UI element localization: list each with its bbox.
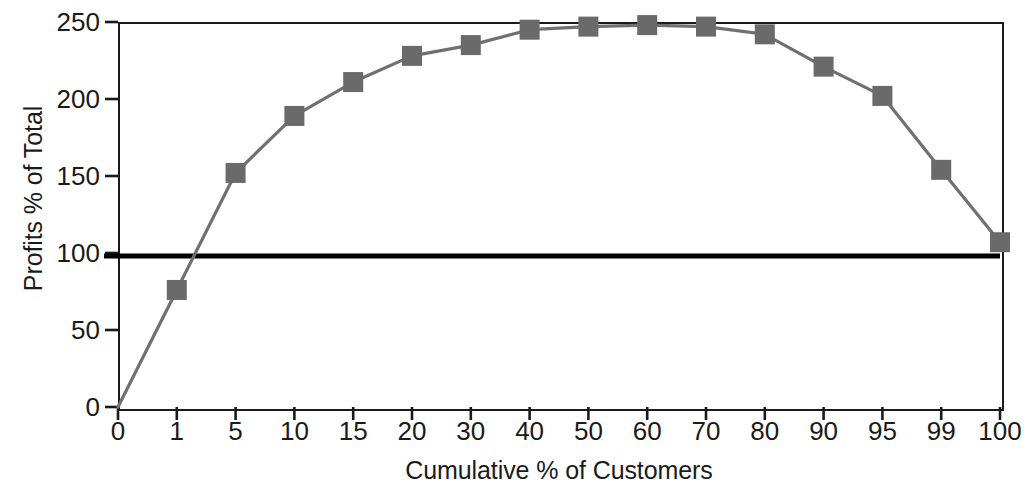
data-point-marker <box>696 17 716 37</box>
data-point-marker <box>343 72 363 92</box>
series-line <box>118 25 1000 407</box>
data-point-marker <box>637 15 657 35</box>
data-point-marker <box>990 232 1010 252</box>
y-axis-tick-marks <box>105 22 118 407</box>
data-point-marker <box>167 280 187 300</box>
data-point-marker <box>814 57 834 77</box>
chart-container: Profits % of Total 050100150200250 01510… <box>0 0 1028 499</box>
x-axis-tick-labels: 015101520304050607080909599100 <box>0 418 1028 452</box>
data-point-marker <box>461 35 481 55</box>
data-point-marker <box>226 163 246 183</box>
x-axis-title: Cumulative % of Customers <box>118 456 1000 485</box>
data-point-marker <box>402 46 422 66</box>
data-point-marker <box>578 17 598 37</box>
x-axis-tick-label: 100 <box>965 418 1028 444</box>
data-point-marker <box>931 160 951 180</box>
data-point-marker <box>520 20 540 40</box>
data-point-marker <box>755 24 775 44</box>
data-point-marker <box>284 106 304 126</box>
data-point-marker <box>872 86 892 106</box>
